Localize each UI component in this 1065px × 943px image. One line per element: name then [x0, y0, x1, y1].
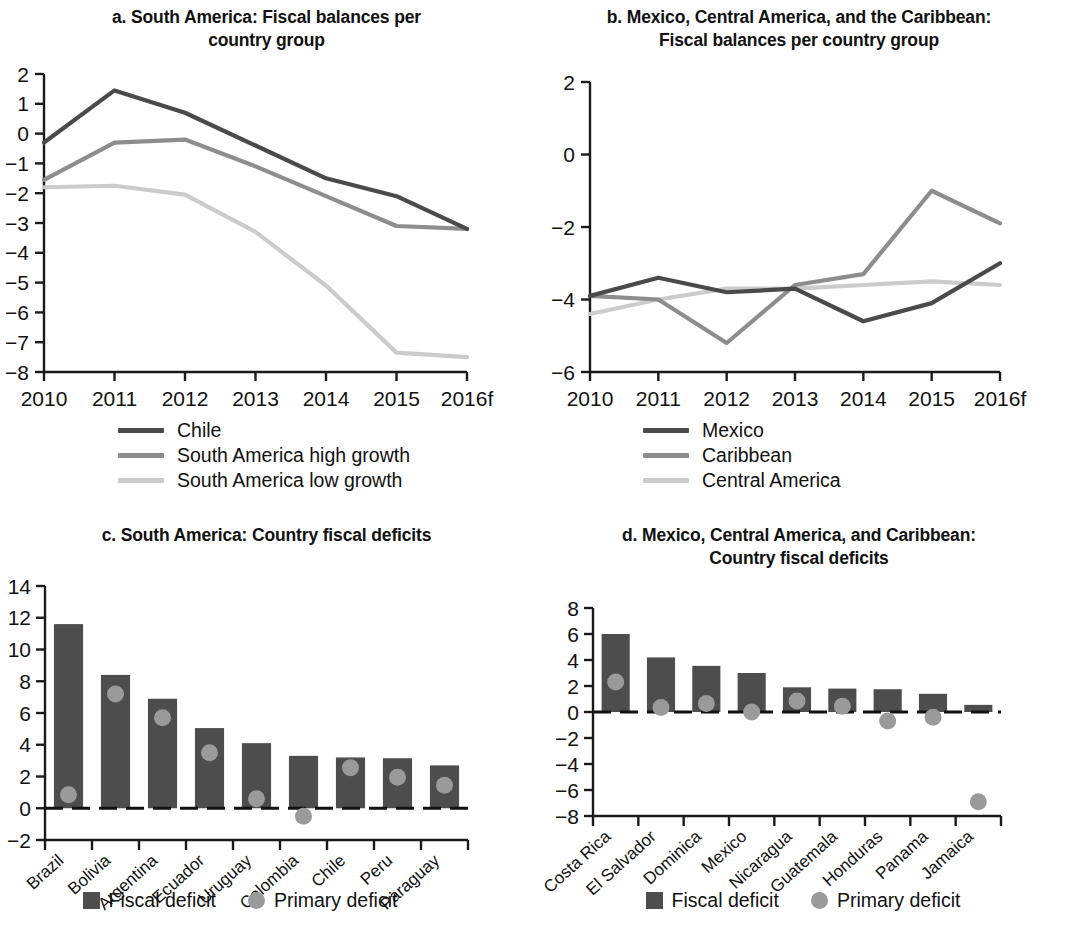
legend-label: Primary deficit — [837, 889, 961, 912]
primary-deficit-point — [107, 685, 124, 702]
y-tick-label: 0 — [563, 143, 575, 166]
panel-b-title-line2: Fiscal balances per country group — [533, 29, 1065, 52]
y-tick-label: 4 — [567, 649, 579, 672]
primary-deficit-circle-icon — [811, 892, 828, 909]
legend-line-swatch-icon — [118, 478, 164, 483]
panel-c-title: c. South America: Country fiscal deficit… — [0, 524, 533, 547]
panel-d-title: d. Mexico, Central America, and Caribbea… — [533, 524, 1065, 570]
y-tick-label: −4 — [551, 288, 575, 311]
y-tick-label: 6 — [567, 623, 579, 646]
bar — [195, 728, 224, 808]
y-tick-label: −8 — [555, 805, 579, 828]
x-tick-label: 2012 — [703, 387, 750, 410]
legend-label: Caribbean — [702, 444, 792, 467]
y-tick-label: 0 — [19, 797, 31, 820]
primary-deficit-point — [743, 704, 760, 721]
legend-label: Central America — [702, 469, 841, 492]
legend-line-swatch-icon — [643, 428, 689, 433]
panel-a-svg: 210−1−2−3−4−5−6−7−8201020112012201320142… — [0, 55, 500, 410]
legend-line-swatch-icon — [643, 478, 689, 483]
primary-deficit-point — [834, 698, 851, 715]
panel-a-title-line1: a. South America: Fiscal balances per — [0, 6, 533, 29]
legend-item: Central America — [643, 468, 841, 493]
primary-deficit-point — [248, 790, 265, 807]
bar — [602, 634, 630, 712]
y-tick-label: −4 — [555, 753, 579, 776]
y-tick-label: −1 — [5, 152, 29, 175]
x-tick-label: 2015 — [373, 387, 420, 410]
y-tick-label: 2 — [19, 765, 31, 788]
series-line-mexico — [590, 263, 1000, 321]
panel-a-legend: Chile South America high growth South Am… — [118, 418, 410, 493]
x-tick-label: 2013 — [772, 387, 819, 410]
fiscal-deficit-square-icon — [83, 892, 100, 909]
legend-item: South America high growth — [118, 443, 410, 468]
legend-line-swatch-icon — [118, 428, 164, 433]
y-tick-label: −2 — [7, 829, 31, 852]
y-tick-label: −7 — [5, 331, 29, 354]
primary-deficit-point — [436, 777, 453, 794]
category-label: Peru — [357, 851, 396, 889]
panel-d-legend: Fiscal deficit Primary deficit — [573, 889, 1033, 912]
x-tick-label: 2012 — [162, 387, 209, 410]
x-tick-label: 2015 — [908, 387, 955, 410]
bar — [54, 624, 83, 808]
y-tick-label: 2 — [567, 675, 579, 698]
four-panel-fiscal-figure: a. South America: Fiscal balances per co… — [0, 0, 1065, 943]
primary-deficit-point — [342, 759, 359, 776]
y-tick-label: 6 — [19, 702, 31, 725]
y-tick-label: 2 — [563, 71, 575, 94]
panel-b: b. Mexico, Central America, and the Cari… — [533, 0, 1065, 512]
y-tick-label: 2 — [17, 63, 29, 86]
x-tick-label: 2010 — [567, 387, 614, 410]
legend-label: Primary deficit — [274, 889, 398, 912]
y-tick-label: −6 — [551, 361, 575, 384]
panel-d: d. Mexico, Central America, and Caribbea… — [533, 512, 1065, 943]
panel-a-title-line2: country group — [0, 29, 533, 52]
legend-line-swatch-icon — [643, 453, 689, 458]
panel-b-plot: 20−2−4−62010201120122013201420152016f — [545, 55, 1055, 410]
y-tick-label: −2 — [555, 727, 579, 750]
bar — [874, 689, 902, 712]
category-label: Chile — [308, 851, 350, 891]
panel-b-legend: Mexico Caribbean Central America — [643, 418, 841, 493]
legend-line-swatch-icon — [118, 453, 164, 458]
primary-deficit-point — [789, 692, 806, 709]
legend-item: South America low growth — [118, 468, 410, 493]
panel-b-title: b. Mexico, Central America, and the Cari… — [533, 6, 1065, 52]
y-tick-label: −4 — [5, 241, 29, 264]
primary-deficit-point — [201, 744, 218, 761]
bar — [289, 756, 318, 808]
primary-deficit-point — [154, 709, 171, 726]
panel-b-svg: 20−2−4−62010201120122013201420152016f — [545, 55, 1055, 410]
y-tick-label: 14 — [8, 575, 32, 598]
x-tick-label: 2013 — [232, 387, 279, 410]
legend-label: South America high growth — [177, 444, 410, 467]
y-tick-label: −2 — [551, 216, 575, 239]
y-tick-label: 1 — [17, 92, 29, 115]
primary-deficit-point — [970, 793, 987, 810]
y-tick-label: 8 — [567, 597, 579, 620]
panel-d-title-line1: d. Mexico, Central America, and Caribbea… — [533, 524, 1065, 547]
primary-deficit-point — [698, 695, 715, 712]
x-tick-label: 2016f — [974, 387, 1027, 410]
x-tick-label: 2014 — [840, 387, 887, 410]
y-tick-label: 0 — [17, 122, 29, 145]
y-tick-label: −8 — [5, 361, 29, 384]
legend-label: Chile — [177, 419, 221, 442]
y-tick-label: −6 — [555, 779, 579, 802]
primary-deficit-point — [295, 808, 312, 825]
legend-item: Caribbean — [643, 443, 841, 468]
y-tick-label: 12 — [8, 606, 31, 629]
panel-c-title-line1: c. South America: Country fiscal deficit… — [0, 524, 533, 547]
x-tick-label: 2016f — [441, 387, 494, 410]
legend-label: Fiscal deficit — [672, 889, 779, 912]
panel-d-plot: 86420−2−4−6−8Costa RicaEl SalvadorDomini… — [545, 572, 1055, 912]
panel-a-plot: 210−1−2−3−4−5−6−7−8201020112012201320142… — [0, 55, 500, 410]
y-tick-label: 0 — [567, 701, 579, 724]
legend-item: Mexico — [643, 418, 841, 443]
primary-deficit-point — [389, 769, 406, 786]
primary-deficit-point — [607, 674, 624, 691]
panel-b-title-line1: b. Mexico, Central America, and the Cari… — [533, 6, 1065, 29]
panel-a: a. South America: Fiscal balances per co… — [0, 0, 533, 512]
